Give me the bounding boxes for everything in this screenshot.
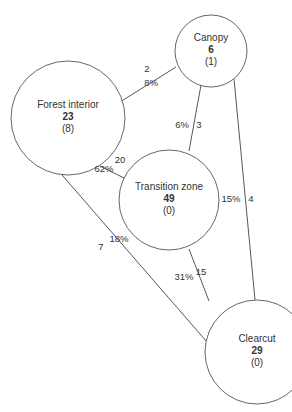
node-clearcut: Clearcut29(0) [205, 300, 292, 404]
habitat-transition-diagram: Canopy6(1)Forest interior23(8)Transition… [0, 0, 292, 412]
edge-count-label: 4 [248, 193, 253, 204]
node-name-label: Forest interior [37, 99, 99, 110]
node-sub-label: (0) [251, 357, 263, 368]
edge-percent-label: 31% [174, 271, 194, 282]
edge-canopy-clearcut [234, 79, 255, 300]
edge-count-label: 2 [144, 63, 149, 74]
edge-canopy-transition-zone [189, 85, 201, 151]
node-sub-label: (0) [163, 205, 175, 216]
edge-percent-label: 8% [144, 77, 158, 88]
node-name-label: Clearcut [238, 333, 275, 344]
edge-percent-label: 15% [221, 193, 241, 204]
node-count-label: 49 [163, 193, 175, 204]
node-count-label: 23 [62, 111, 74, 122]
nodes-layer: Canopy6(1)Forest interior23(8)Transition… [11, 15, 292, 404]
node-name-label: Transition zone [135, 181, 203, 192]
edge-percent-label: 18% [109, 233, 129, 244]
edge-percent-label: 62% [94, 163, 114, 174]
node-sub-label: (8) [62, 123, 74, 134]
node-count-label: 6 [208, 44, 214, 55]
node-transition-zone: Transition zone49(0) [119, 150, 219, 250]
edge-count-label: 7 [98, 241, 103, 252]
node-canopy: Canopy6(1) [175, 15, 247, 87]
node-name-label: Canopy [194, 32, 228, 43]
node-forest-interior: Forest interior23(8) [11, 61, 125, 175]
edge-percent-label: 6% [175, 119, 189, 130]
node-circle [205, 300, 292, 404]
node-sub-label: (1) [205, 56, 217, 67]
edge-count-label: 3 [196, 119, 201, 130]
edge-count-label: 20 [115, 154, 126, 165]
edge-count-label: 15 [196, 266, 207, 277]
node-count-label: 29 [251, 345, 263, 356]
